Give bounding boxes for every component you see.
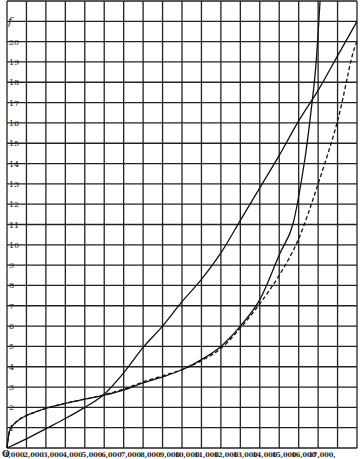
y-tick-label: 18 <box>9 78 19 87</box>
x-tick-label: 8,000 <box>140 451 161 459</box>
y-tick-label: 16 <box>9 119 19 128</box>
y-tick-label: 2 <box>9 403 14 412</box>
y-tick-label: 5 <box>9 342 14 351</box>
chart: 1234567891011121314151617181920 O1,0002,… <box>0 0 361 459</box>
y-tick-label: 15 <box>9 139 19 148</box>
y-tick-label: 4 <box>9 363 14 372</box>
x-tick-label: 6,000 <box>101 451 122 459</box>
x-tick-label: 7,000 <box>121 451 142 459</box>
y-tick-label: 9 <box>9 261 14 270</box>
y-tick-label: 14 <box>9 160 19 169</box>
y-axis-ticks: 1234567891011121314151617181920 <box>9 38 19 433</box>
y-tick-label: 11 <box>9 221 19 230</box>
x-axis-ticks: O1,0002,0003,0004,0005,0006,0007,0008,00… <box>2 449 336 459</box>
y-tick-label: 10 <box>9 241 19 250</box>
y-tick-label: 12 <box>9 200 19 209</box>
y-tick-label: 20 <box>9 38 19 47</box>
y-tick-label: 17 <box>9 99 19 108</box>
y-tick-label: 6 <box>9 322 14 331</box>
x-tick-label: 3,000 <box>43 451 64 459</box>
y-tick-label: 13 <box>9 180 19 189</box>
y-tick-label: 19 <box>9 58 19 67</box>
y-tick-label: 3 <box>9 383 14 392</box>
x-tick-label: 1,000 <box>4 451 25 459</box>
y-tick-label: 7 <box>9 302 14 311</box>
y-tick-label: 8 <box>9 281 14 290</box>
x-tick-label: 2,000 <box>24 451 45 459</box>
x-tick-label: 5,000 <box>82 451 103 459</box>
x-tick-label: 4,000 <box>62 451 83 459</box>
x-tick-label: 17,000, <box>308 451 335 459</box>
